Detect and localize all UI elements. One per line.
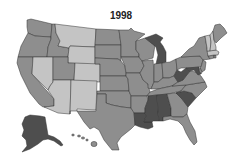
state-FL[interactable] [163, 114, 197, 145]
state-WY[interactable] [68, 46, 95, 65]
state-AK[interactable] [22, 115, 63, 152]
state-NM[interactable] [70, 80, 97, 114]
state-HI[interactable] [72, 134, 97, 147]
state-ME[interactable] [213, 24, 227, 43]
state-ND[interactable] [95, 29, 121, 45]
state-OR[interactable] [18, 33, 51, 57]
state-CO[interactable] [74, 63, 100, 82]
state-MT[interactable] [55, 24, 96, 48]
state-KS[interactable] [100, 76, 129, 91]
state-RI[interactable] [214, 55, 216, 58]
us-choropleth-map [0, 0, 242, 167]
